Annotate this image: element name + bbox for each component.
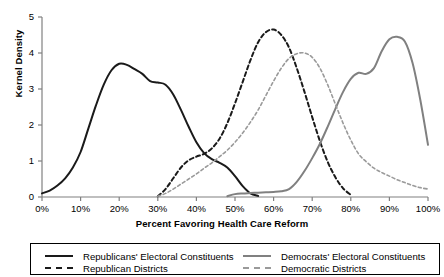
- series-line-2: [227, 37, 428, 197]
- x-tick-label: 90%: [369, 203, 409, 214]
- x-tick-label: 50%: [215, 203, 255, 214]
- x-tick-label: 20%: [99, 203, 139, 214]
- series-line-3: [158, 53, 428, 197]
- legend-label-3: Democratic Districts: [281, 263, 366, 274]
- series-line-0: [42, 63, 258, 195]
- legend-label-0: Republicans' Electoral Constituents: [83, 251, 234, 262]
- y-tick-label: 1: [16, 155, 34, 166]
- x-tick-label: 10%: [61, 203, 101, 214]
- legend-swatch-1: [243, 255, 271, 257]
- chart-legend: Republicans' Electoral ConstituentsDemoc…: [30, 243, 440, 275]
- x-tick-label: 0%: [22, 203, 62, 214]
- x-tick-label: 70%: [292, 203, 332, 214]
- kernel-density-chart: Kernel Density Percent Favoring Health C…: [0, 0, 444, 277]
- series-line-1: [158, 29, 351, 196]
- legend-label-2: Republican Districts: [83, 263, 168, 274]
- legend-swatch-0: [45, 255, 73, 257]
- y-tick-label: 5: [16, 11, 34, 22]
- legend-label-1: Democrats' Electoral Constituents: [281, 251, 425, 262]
- x-tick-label: 60%: [254, 203, 294, 214]
- x-tick-label: 80%: [331, 203, 371, 214]
- legend-swatch-2: [45, 267, 73, 269]
- legend-swatch-3: [243, 267, 271, 269]
- y-tick-label: 2: [16, 119, 34, 130]
- x-tick-label: 40%: [176, 203, 216, 214]
- y-tick-label: 4: [16, 47, 34, 58]
- x-tick-label: 30%: [138, 203, 178, 214]
- y-tick-label: 3: [16, 83, 34, 94]
- x-tick-label: 100%: [408, 203, 444, 214]
- y-tick-label: 0: [16, 191, 34, 202]
